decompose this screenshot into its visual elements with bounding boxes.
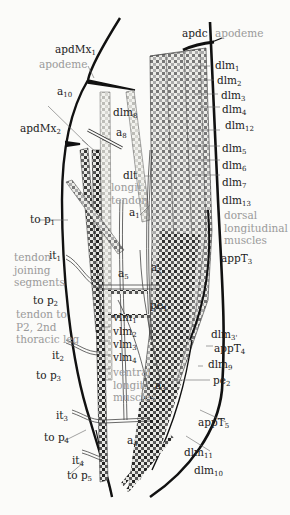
label-pe2: pe2 bbox=[213, 375, 230, 390]
label-dlm5: dlm5 bbox=[222, 143, 247, 158]
label-a10: a10 bbox=[57, 86, 72, 101]
label-longit-tendon: longit. tendon bbox=[111, 181, 148, 206]
label-dlm8: dlm8 bbox=[113, 107, 138, 122]
label-dorsal-longitudinal-muscles: dorsal longitudinal muscles bbox=[224, 209, 288, 247]
anatomy-diagram: apdMx1 apodeme apdc apodeme a10 dlm8 apd… bbox=[0, 0, 290, 515]
label-to-p3: to p3 bbox=[36, 370, 61, 385]
label-appt5: appT5 bbox=[198, 417, 229, 432]
label-dlm12: dlm12 bbox=[225, 120, 254, 135]
label-to-p4: to p4 bbox=[44, 432, 69, 447]
label-apodeme-right: apodeme bbox=[215, 28, 263, 39]
label-tendon-to-p2: tendon to P2, 2nd thoracic leg bbox=[16, 308, 79, 346]
label-dlm9: dlm9 bbox=[208, 359, 233, 374]
label-apdmx2: apdMx2 bbox=[20, 123, 61, 138]
label-it4: it4 bbox=[72, 455, 84, 470]
label-vlm4: vlm4 bbox=[113, 352, 137, 367]
label-dlm4: dlm4 bbox=[222, 104, 247, 119]
label-dlm1: dlm1 bbox=[215, 60, 240, 75]
label-dlt: dlt bbox=[123, 170, 137, 181]
label-tendon-joining-segments: tendon joining segments bbox=[14, 251, 65, 289]
label-pe1: pe1 bbox=[150, 300, 167, 315]
label-a5: a5 bbox=[118, 268, 129, 283]
label-a2: a2 bbox=[151, 262, 162, 277]
apodeme-mx2 bbox=[66, 142, 80, 146]
label-to-p5: to p5 bbox=[67, 470, 92, 485]
label-apdmx1: apdMx1 bbox=[55, 44, 96, 59]
label-ventral-longit-muscles: ventral longit. muscles bbox=[113, 366, 156, 404]
label-appt3: appT3 bbox=[221, 253, 252, 268]
label-a1: a1 bbox=[129, 207, 140, 222]
label-dlm13: dlm13 bbox=[222, 195, 251, 210]
label-it2: it2 bbox=[52, 350, 64, 365]
label-apodeme-left: apodeme bbox=[39, 59, 87, 70]
label-dlm10: dlm10 bbox=[194, 465, 223, 480]
label-a3: a3 bbox=[155, 380, 166, 395]
label-dlm11: dlm11 bbox=[184, 447, 213, 462]
label-dlm2: dlm2 bbox=[217, 75, 242, 90]
label-it3: it3 bbox=[56, 410, 68, 425]
label-a8: a8 bbox=[116, 127, 127, 142]
label-dlm6: dlm6 bbox=[222, 160, 247, 175]
label-to-p1: to p1 bbox=[30, 214, 55, 229]
label-appt4: appT4 bbox=[214, 343, 245, 358]
apodeme-mx1 bbox=[88, 80, 135, 90]
label-apdc: apdc bbox=[182, 28, 208, 39]
label-dlm7: dlm7 bbox=[222, 177, 247, 192]
label-a4: a4 bbox=[127, 435, 138, 450]
